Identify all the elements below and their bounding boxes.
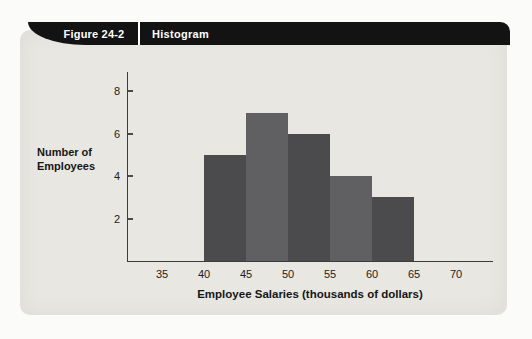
histogram-bar-45-50 — [246, 113, 288, 261]
y-tick-label-6: 6 — [98, 127, 120, 141]
figure-title: Histogram — [152, 28, 209, 40]
x-tick-label-70: 70 — [441, 267, 471, 281]
x-axis-line — [127, 261, 493, 262]
histogram-bar-40-45 — [204, 155, 246, 261]
histogram-bar-60-65 — [372, 197, 414, 261]
y-tick-label-8: 8 — [98, 84, 120, 98]
y-tick-label-4: 4 — [98, 169, 120, 183]
x-tick-label-35: 35 — [147, 267, 177, 281]
y-axis-line — [127, 72, 128, 261]
x-tick-label-40: 40 — [189, 267, 219, 281]
x-tick-label-55: 55 — [315, 267, 345, 281]
histogram-bar-55-60 — [330, 176, 372, 261]
figure-number-label: Figure 24-2 — [58, 28, 130, 40]
histogram-bar-50-55 — [288, 134, 330, 261]
y-tick-label-2: 2 — [98, 212, 120, 226]
histogram-chart: Number of Employees 2468 354045505560657… — [20, 30, 507, 315]
figure-header-banner: Figure 24-2 Histogram — [28, 22, 510, 45]
x-axis-title: Employee Salaries (thousands of dollars) — [127, 288, 493, 300]
textbook-figure: Number of Employees 2468 354045505560657… — [0, 0, 532, 339]
banner-separator — [138, 22, 140, 45]
x-tick-label-65: 65 — [399, 267, 429, 281]
x-tick-label-60: 60 — [357, 267, 387, 281]
y-axis-title: Number of Employees — [37, 145, 95, 173]
x-tick-label-45: 45 — [231, 267, 261, 281]
y-axis-title-line1: Number of — [37, 145, 95, 159]
y-axis-title-line2: Employees — [37, 159, 95, 173]
x-tick-label-50: 50 — [273, 267, 303, 281]
figure-panel: Number of Employees 2468 354045505560657… — [20, 30, 507, 315]
